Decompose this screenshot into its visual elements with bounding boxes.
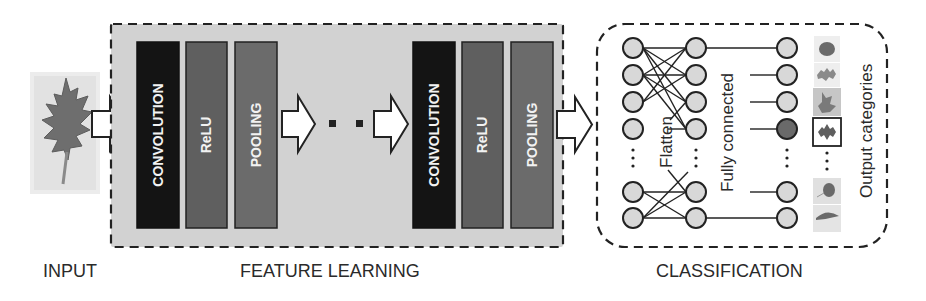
feature-learning-caption: FEATURE LEARNING <box>240 261 420 281</box>
pooling-label: POOLING <box>248 103 264 168</box>
node <box>686 119 706 139</box>
node <box>686 38 706 58</box>
relu-label: ReLU <box>198 117 214 154</box>
thumbnail-long-leaf <box>813 205 841 232</box>
input-leaf-image <box>30 72 100 194</box>
feature-stage-2: CONVOLUTION ReLU POOLING <box>413 42 553 228</box>
node <box>686 208 706 228</box>
node <box>777 65 797 85</box>
node <box>686 65 706 85</box>
node <box>777 38 797 58</box>
classification-caption: CLASSIFICATION <box>656 261 803 281</box>
node <box>686 182 706 202</box>
relu-label: ReLU <box>474 117 490 154</box>
node <box>777 182 797 202</box>
thumbnail-lobed-leaf <box>814 63 840 87</box>
ellipsis-dot <box>356 120 363 127</box>
output-categories-label: Output categories <box>857 64 876 198</box>
input-caption: INPUT <box>43 261 97 281</box>
node <box>623 65 643 85</box>
node <box>623 182 643 202</box>
node <box>623 119 643 139</box>
output-thumbnails <box>813 36 841 232</box>
convolution-label: CONVOLUTION <box>426 83 442 186</box>
thumbnail-oak-leaf-selected <box>813 118 841 146</box>
pooling-label: POOLING <box>524 103 540 168</box>
thumbnail-round-leaf <box>814 36 840 62</box>
ellipsis-dot <box>329 120 336 127</box>
node <box>623 208 643 228</box>
thumbnail-small-leaf <box>813 178 841 204</box>
node <box>623 92 643 112</box>
flatten-label: Flatten <box>657 116 676 168</box>
cnn-architecture-diagram: CONVOLUTION ReLU POOLING CONVOLUTION ReL… <box>0 0 926 301</box>
node <box>686 92 706 112</box>
feature-stage-1: CONVOLUTION ReLU POOLING <box>137 42 277 228</box>
node <box>777 92 797 112</box>
fully-connected-label: Fully connected <box>718 73 737 192</box>
node-active <box>777 119 797 139</box>
thumbnail-maple-leaf <box>813 88 841 116</box>
convolution-label: CONVOLUTION <box>150 83 166 186</box>
node <box>777 208 797 228</box>
node <box>623 38 643 58</box>
